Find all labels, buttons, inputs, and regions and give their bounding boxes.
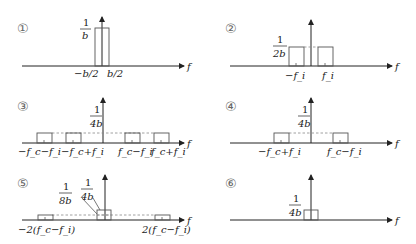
tick-label: −2(f_c−f_i) bbox=[18, 224, 75, 236]
spectrum-rect bbox=[333, 133, 348, 143]
tick-label: f_c−f_i bbox=[326, 146, 362, 158]
height-den: 4b bbox=[297, 118, 311, 129]
axis-label: f bbox=[186, 138, 193, 149]
panel-marker: ④ bbox=[225, 99, 237, 114]
spectrum-rect bbox=[289, 47, 304, 66]
panel-5: ⑤ f 1 8b 1 4b −2(f_c−f_i) 2(f_c−f_i) bbox=[17, 175, 193, 236]
height-den: 4b bbox=[288, 207, 302, 218]
side-num: 1 bbox=[63, 181, 69, 192]
height-num: 1 bbox=[94, 104, 100, 115]
height-num: 1 bbox=[277, 34, 283, 45]
panel-marker: ③ bbox=[17, 99, 29, 114]
tick-label: b/2 bbox=[107, 68, 123, 79]
tick-label: f_i bbox=[321, 70, 334, 82]
panel-2: ② f 1 2b −f_i f_i bbox=[225, 20, 401, 82]
axis-label: f bbox=[394, 61, 401, 72]
panel-marker: ② bbox=[225, 21, 237, 36]
spectrum-rect bbox=[274, 133, 289, 143]
panel-marker: ⑤ bbox=[17, 176, 29, 191]
axis-label: f bbox=[394, 138, 401, 149]
spectrum-rect bbox=[154, 133, 169, 143]
panel-4: ④ f 1 4b −f_c+f_i f_c−f_i bbox=[225, 98, 401, 158]
tick-label: −f_c−f_i bbox=[18, 146, 61, 158]
side-den: 8b bbox=[59, 195, 72, 206]
leader-line bbox=[93, 198, 100, 210]
tick-label: f_c+f_i bbox=[150, 146, 186, 158]
height-num: 1 bbox=[302, 104, 308, 115]
spectrum-diagrams: ① f 1 b −b/2 b/2 ② f 1 2b −f_i f_i ③ f bbox=[0, 0, 416, 244]
height-num: 1 bbox=[293, 193, 299, 204]
spectrum-rect bbox=[66, 133, 81, 143]
tick-label: −f_c+f_i bbox=[258, 146, 301, 158]
spectrum-rect bbox=[155, 215, 170, 220]
height-den: 2b bbox=[272, 48, 286, 59]
height-den: 4b bbox=[80, 191, 94, 202]
height-den: b bbox=[82, 30, 88, 41]
spectrum-rect bbox=[38, 215, 53, 220]
panel-3: ③ f 1 4b −f_c−f_i −f_c+f_i f_c−f_i f_c+f… bbox=[17, 98, 193, 158]
tick-label: −f_i bbox=[285, 70, 305, 82]
tick-label: −b/2 bbox=[74, 68, 99, 79]
height-num: 1 bbox=[85, 177, 91, 188]
height-den: 4b bbox=[89, 118, 103, 129]
tick-label: f_c−f_i bbox=[117, 146, 153, 158]
spectrum-rect bbox=[318, 47, 333, 66]
panel-marker: ① bbox=[17, 21, 29, 36]
tick-label: 2(f_c−f_i) bbox=[141, 224, 191, 236]
tick-label: −f_c+f_i bbox=[61, 146, 104, 158]
axis-label: f bbox=[186, 61, 193, 72]
panel-6: ⑥ f 1 4b bbox=[225, 175, 401, 226]
panel-1: ① f 1 b −b/2 b/2 bbox=[17, 17, 193, 79]
height-num: 1 bbox=[83, 17, 89, 28]
panel-marker: ⑥ bbox=[225, 176, 237, 191]
spectrum-rect bbox=[125, 133, 140, 143]
spectrum-rect bbox=[37, 133, 52, 143]
axis-label: f bbox=[394, 215, 401, 226]
